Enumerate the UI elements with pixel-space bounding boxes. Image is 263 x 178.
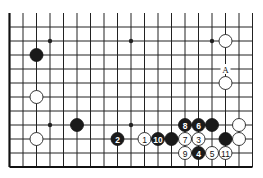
white-stone-circle	[30, 133, 43, 146]
white-stone	[219, 35, 232, 48]
star-point	[48, 123, 52, 127]
white-stone-move-3: 3	[192, 133, 205, 146]
white-stone	[233, 119, 246, 132]
white-stone	[219, 77, 232, 90]
black-stone-circle	[165, 133, 178, 146]
white-stone-circle	[30, 91, 43, 104]
white-stone-move-7: 7	[179, 133, 192, 146]
white-stone-circle	[219, 77, 232, 90]
white-stone-move-11: 11	[219, 147, 232, 160]
white-stone-circle	[233, 119, 246, 132]
white-stone	[30, 133, 43, 146]
white-stone-circle	[233, 133, 246, 146]
black-stone	[206, 119, 219, 132]
white-stone-move-9: 9	[179, 147, 192, 160]
black-stone-circle	[71, 119, 84, 132]
black-stone-move-8: 8	[179, 119, 192, 132]
black-stone-move-10: 10	[152, 133, 165, 146]
point-labels: A	[221, 64, 231, 75]
move-number: 8	[183, 121, 188, 131]
white-stone	[30, 91, 43, 104]
black-stone	[71, 119, 84, 132]
star-point	[48, 39, 52, 43]
black-stone-move-6: 6	[192, 119, 205, 132]
white-stone-move-1: 1	[138, 133, 151, 146]
black-stone-move-2: 2	[111, 133, 124, 146]
black-stone-circle	[206, 119, 219, 132]
move-number: 4	[196, 149, 201, 159]
black-stone	[165, 133, 178, 146]
white-stone	[233, 133, 246, 146]
move-number: 3	[196, 135, 201, 145]
point-label-a: A	[222, 65, 229, 75]
move-number: 6	[196, 121, 201, 131]
black-stone-circle	[219, 133, 232, 146]
move-number: 1	[142, 135, 147, 145]
black-stone-move-4: 4	[192, 147, 205, 160]
star-point	[129, 123, 133, 127]
white-stone-circle	[219, 35, 232, 48]
black-stone	[219, 133, 232, 146]
move-number: 11	[221, 149, 230, 159]
go-board: A 2110738694511	[0, 0, 263, 178]
move-number: 10	[153, 135, 163, 145]
move-number: 2	[115, 135, 120, 145]
star-point	[129, 39, 133, 43]
move-number: 9	[183, 149, 188, 159]
black-stone	[30, 49, 43, 62]
black-stone-circle	[30, 49, 43, 62]
star-point	[210, 39, 214, 43]
move-number: 7	[183, 135, 188, 145]
white-stone-move-5: 5	[206, 147, 219, 160]
grid-lines	[10, 13, 253, 167]
move-number: 5	[210, 149, 215, 159]
